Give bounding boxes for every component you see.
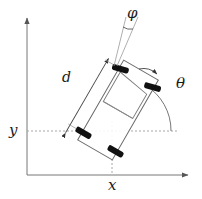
- label-wheelbase: d: [62, 70, 71, 84]
- diagram-canvas: [0, 0, 202, 199]
- label-y-axis: y: [9, 123, 17, 138]
- label-x-axis: x: [108, 178, 116, 193]
- kinematic-car-diagram: φ θ d y x: [0, 0, 202, 199]
- car-body-group: [64, 52, 165, 163]
- steering-angle-wedge: [114, 17, 138, 66]
- label-steering-angle: φ: [127, 6, 138, 21]
- phi-arc-path: [123, 27, 133, 29]
- label-heading-angle: θ: [176, 76, 185, 91]
